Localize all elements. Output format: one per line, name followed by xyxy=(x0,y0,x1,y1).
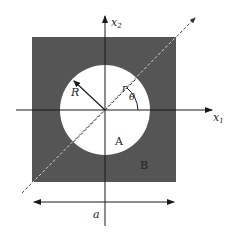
x2-axis-label: x2 xyxy=(111,16,122,30)
diagram-svg: x2 x1 R r θ A B a xyxy=(0,0,236,237)
radius-label: R xyxy=(70,86,79,99)
side-length-label: a xyxy=(93,208,100,221)
matrix-label-b: B xyxy=(140,159,148,172)
theta-label: θ xyxy=(129,91,135,102)
x1-axis-label: x1 xyxy=(213,111,224,125)
inclusion-label-a: A xyxy=(114,135,124,148)
diagram-canvas: x2 x1 R r θ A B a xyxy=(0,0,236,237)
